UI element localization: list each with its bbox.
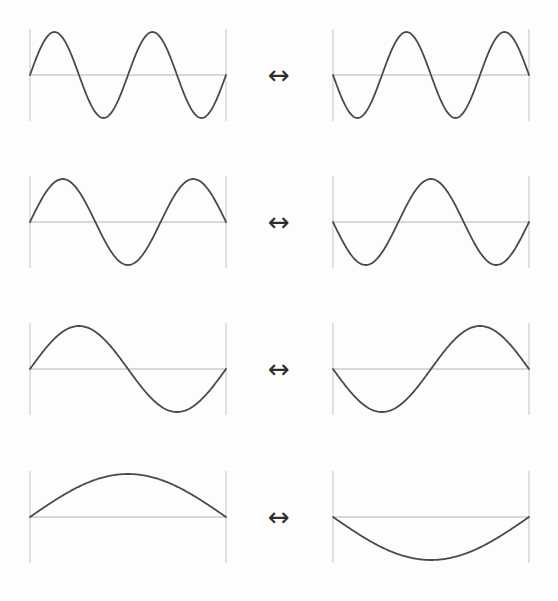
double-arrow-icon: ↔ xyxy=(259,504,299,530)
double-arrow-icon: ↔ xyxy=(259,209,299,235)
mode-4-inverted-panel xyxy=(332,28,530,122)
mode-1-inverted-panel xyxy=(332,470,530,564)
mode-3-inverted-panel xyxy=(332,175,530,269)
mode-1-panel xyxy=(29,470,227,564)
mode-4-panel xyxy=(29,28,227,122)
double-arrow-icon: ↔ xyxy=(259,62,299,88)
double-arrow-icon: ↔ xyxy=(259,356,299,382)
wave-curve xyxy=(30,474,226,517)
mode-3-panel xyxy=(29,175,227,269)
mode-2-panel xyxy=(29,322,227,416)
mode-2-inverted-panel xyxy=(332,322,530,416)
wave-curve xyxy=(333,517,529,560)
